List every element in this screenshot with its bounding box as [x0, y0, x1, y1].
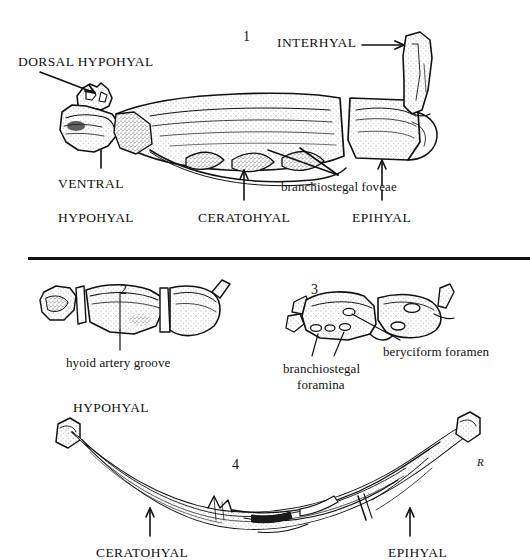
label-hyoid-artery-groove: hyoid artery groove: [66, 356, 170, 369]
label-branchiostegal-foramina-line2: foramina: [297, 378, 345, 391]
label-branchiostegal-foveae: branchiostegal foveae: [281, 180, 397, 193]
figure-number-2: 2: [120, 283, 127, 297]
label-hypohyal-fig1: HYPOHYAL: [58, 211, 134, 225]
label-ventral: VENTRAL: [58, 177, 124, 191]
figure-4-leaders: [146, 508, 414, 536]
figure-4-artwork: [56, 412, 480, 533]
anatomical-artwork: R: [0, 0, 530, 560]
section-divider: [28, 257, 530, 260]
label-ceratohyal-fig1: CERATOHYAL: [198, 211, 290, 225]
figure-number-1: 1: [243, 30, 250, 44]
label-ceratohyal-fig4: CERATOHYAL: [96, 546, 188, 560]
label-branchiostegal-foramina-line1: branchiostegal: [283, 362, 360, 375]
artist-signature-text: R: [476, 456, 484, 468]
label-hypohyal-fig4: HYPOHYAL: [73, 401, 149, 415]
label-epihyal-fig1: EPIHYAL: [352, 211, 411, 225]
label-interhyal: INTERHYAL: [277, 36, 356, 50]
figure-2-artwork: [40, 280, 230, 350]
figure-number-3: 3: [311, 283, 318, 297]
illustration-plate: R 1 DORSAL HYPOHYAL INTERHYAL VENTRAL HY…: [0, 0, 530, 560]
label-beryciform-foramen: beryciform foramen: [383, 345, 489, 358]
label-epihyal-fig4: EPIHYAL: [388, 546, 447, 560]
figure-number-4: 4: [232, 458, 239, 472]
label-dorsal-hypohyal: DORSAL HYPOHYAL: [18, 55, 154, 69]
